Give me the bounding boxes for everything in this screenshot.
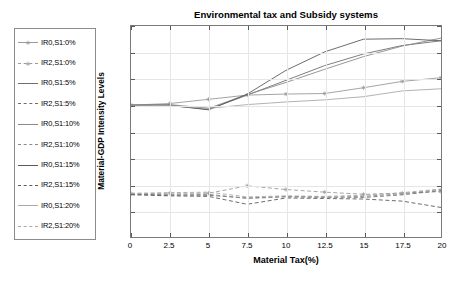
asterisk-marker-icon: ∗ xyxy=(25,59,31,66)
legend-item[interactable]: IR2,S1:10% xyxy=(15,135,95,154)
series-line xyxy=(131,195,441,208)
legend-line-sample xyxy=(18,200,38,210)
series-layer xyxy=(131,26,441,237)
grid-line-horizontal xyxy=(131,53,441,54)
x-axis-tick xyxy=(404,26,405,30)
x-axis-tick xyxy=(248,233,249,237)
series-line xyxy=(131,41,441,110)
x-tick-label: 20 xyxy=(438,241,447,250)
chart-title: Environmental tax and Subsidy systems xyxy=(194,9,378,20)
plot-inner xyxy=(131,26,441,237)
legend-item[interactable]: ∗IR2,S1:0% xyxy=(15,53,95,72)
legend-line-sample xyxy=(18,119,38,129)
legend-item-label: IR2,S1:10% xyxy=(41,140,79,149)
y-axis-tick xyxy=(131,159,135,160)
asterisk-marker-icon: ∗ xyxy=(25,39,31,46)
grid-line-vertical xyxy=(365,26,366,237)
x-axis-tick xyxy=(209,26,210,30)
x-tick-label: 17.5 xyxy=(395,241,411,250)
grid-line-vertical xyxy=(170,26,171,237)
series-line xyxy=(131,78,441,105)
grid-line-horizontal xyxy=(131,133,441,134)
x-axis-tick xyxy=(326,233,327,237)
legend-item-label: IR0,S1:0% xyxy=(41,38,75,47)
y-axis-tick xyxy=(437,79,441,80)
x-tick-label: 2.5 xyxy=(163,241,174,250)
y-axis-tick xyxy=(437,26,441,27)
legend-item-label: IR0,S1:10% xyxy=(41,119,79,128)
grid-line-horizontal xyxy=(131,212,441,213)
series-line xyxy=(131,38,441,108)
x-tick-label: 0 xyxy=(128,241,132,250)
x-tick-label: 7.5 xyxy=(241,241,252,250)
y-axis-title: Material-GDP Intensity Levels xyxy=(96,72,106,190)
y-axis-tick xyxy=(437,212,441,213)
y-axis-tick xyxy=(437,159,441,160)
x-axis-tick xyxy=(170,233,171,237)
y-axis-tick xyxy=(131,26,135,27)
series-line xyxy=(131,39,441,110)
x-axis-tick xyxy=(209,233,210,237)
x-axis-tick xyxy=(287,26,288,30)
legend-item[interactable]: IR0,S1:10% xyxy=(15,114,95,133)
x-tick-label: 10 xyxy=(282,241,291,250)
grid-line-vertical xyxy=(287,26,288,237)
y-axis-tick xyxy=(131,133,135,134)
legend-line-sample: ∗ xyxy=(18,58,38,68)
x-tick-label: 5 xyxy=(206,241,210,250)
legend-item-label: IR0,S1:20% xyxy=(41,201,79,210)
legend-item-label: IR0,S1:15% xyxy=(41,160,79,169)
x-axis-tick xyxy=(404,233,405,237)
grid-line-vertical xyxy=(326,26,327,237)
y-axis-tick xyxy=(437,186,441,187)
legend-item[interactable]: IR0,S1:20% xyxy=(15,196,95,215)
legend-item[interactable]: IR2,S1:15% xyxy=(15,175,95,194)
x-axis-tick xyxy=(365,26,366,30)
grid-line-vertical xyxy=(404,26,405,237)
y-axis-tick xyxy=(437,53,441,54)
legend-line-sample xyxy=(18,221,38,231)
x-tick-label: 15 xyxy=(360,241,369,250)
legend-line-sample xyxy=(18,180,38,190)
legend-item[interactable]: IR2,S1:20% xyxy=(15,216,95,235)
legend-line-sample xyxy=(18,98,38,108)
x-axis-tick xyxy=(287,233,288,237)
grid-line-vertical xyxy=(209,26,210,237)
legend-item-label: IR2,S1:15% xyxy=(41,180,79,189)
legend-item[interactable]: IR0,S1:5% xyxy=(15,73,95,92)
chart-page: Environmental tax and Subsidy systems ∗I… xyxy=(0,0,458,281)
y-axis-tick xyxy=(131,106,135,107)
grid-line-horizontal xyxy=(131,79,441,80)
x-axis-tick xyxy=(248,26,249,30)
y-axis-tick xyxy=(131,53,135,54)
chart-legend: ∗IR0,S1:0%∗IR2,S1:0%IR0,S1:5%IR2,S1:5%IR… xyxy=(14,28,96,240)
x-axis-title: Material Tax(%) xyxy=(253,255,318,265)
legend-item-label: IR2,S1:20% xyxy=(41,221,79,230)
legend-item-label: IR2,S1:0% xyxy=(41,58,75,67)
legend-line-sample xyxy=(18,139,38,149)
grid-line-horizontal xyxy=(131,186,441,187)
legend-item-label: IR0,S1:5% xyxy=(41,78,75,87)
legend-item[interactable]: ∗IR0,S1:0% xyxy=(15,33,95,52)
y-axis-tick xyxy=(437,106,441,107)
x-axis-tick xyxy=(326,26,327,30)
y-axis-tick xyxy=(437,133,441,134)
legend-line-sample: ∗ xyxy=(18,37,38,47)
y-axis-tick xyxy=(131,212,135,213)
grid-line-horizontal xyxy=(131,106,441,107)
x-tick-label: 12.5 xyxy=(317,241,333,250)
legend-line-sample xyxy=(18,78,38,88)
legend-item[interactable]: IR0,S1:15% xyxy=(15,155,95,174)
y-axis-tick xyxy=(131,79,135,80)
x-axis-tick xyxy=(365,233,366,237)
legend-item-label: IR2,S1:5% xyxy=(41,99,75,108)
legend-item[interactable]: IR2,S1:5% xyxy=(15,94,95,113)
grid-line-horizontal xyxy=(131,159,441,160)
x-axis-tick xyxy=(131,233,132,237)
grid-line-vertical xyxy=(248,26,249,237)
y-axis-tick xyxy=(131,186,135,187)
legend-line-sample xyxy=(18,160,38,170)
x-axis-tick xyxy=(170,26,171,30)
plot-area xyxy=(130,25,442,238)
